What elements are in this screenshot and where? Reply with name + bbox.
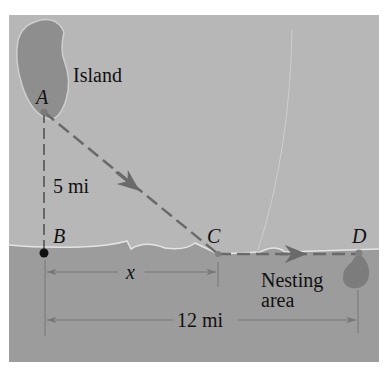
- island-label: Island: [73, 64, 122, 86]
- point-c-marker: [215, 251, 221, 257]
- bd-distance-label: 12 mi: [177, 309, 224, 331]
- point-b-marker: [40, 249, 49, 258]
- point-a-marker: [41, 109, 48, 116]
- water-area: [9, 241, 379, 362]
- point-d-marker: [356, 250, 363, 257]
- island-nesting-diagram: Island A B C D 5 mi x 12 mi Nesting area: [0, 0, 392, 375]
- bc-distance-label: x: [125, 261, 135, 283]
- point-b-label: B: [53, 225, 65, 247]
- nesting-label-line2: area: [261, 289, 294, 311]
- point-c-label: C: [207, 225, 221, 247]
- point-d-label: D: [351, 225, 367, 247]
- ab-distance-label: 5 mi: [53, 175, 90, 197]
- point-a-label: A: [34, 86, 49, 108]
